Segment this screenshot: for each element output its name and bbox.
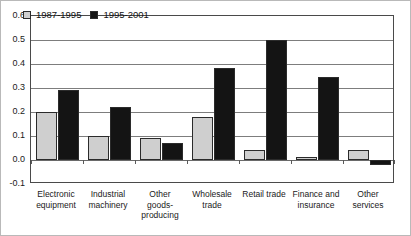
x-axis-category-label-line: producing [134,210,186,221]
bar-series1 [140,138,161,160]
x-axis-category-label-line: Finance and [290,189,342,200]
bar-group [83,16,135,182]
legend-entry: 1995-2001 [90,10,148,20]
bar-group [31,16,83,182]
bar-group [135,16,187,182]
bar-series1 [296,157,317,160]
y-axis-tick-label: 0.4 [0,59,25,68]
bar-series2 [214,68,235,160]
x-axis-category-label-line: Electronic [30,189,82,200]
chart-legend: 1987-19951995-2001 [23,10,149,20]
legend-swatch-black-icon [90,11,98,19]
x-axis-category-label: Othergoods-producing [134,189,186,221]
legend-swatch-gray-icon [23,11,31,19]
x-axis-category-label: Electronicequipment [30,189,82,210]
plot-area [30,15,394,183]
x-axis-category-label: Industrialmachinery [82,189,134,210]
y-axis-tick-label: 0.3 [0,83,25,92]
y-axis-tick-label: -0.1 [0,179,25,188]
x-axis-category-label: Retail trade [238,189,290,200]
x-axis-category-label-line: equipment [30,200,82,211]
x-axis-category-label-line: insurance [290,200,342,211]
y-axis-tick-label: 0.2 [0,107,25,116]
bar-series1 [88,136,109,160]
y-axis-tick-label: 0.5 [0,35,25,44]
legend-label: 1995-2001 [103,10,148,20]
bar-group [291,16,343,182]
bar-series2 [370,160,391,165]
y-axis-tick-label: 0.6 [0,11,25,20]
y-axis-tick-label: 0.1 [0,131,25,140]
x-axis-category-label: Finance andinsurance [290,189,342,210]
bar-group [343,16,395,182]
x-axis-category-label-line: Other [342,189,394,200]
bar-series2 [162,143,183,160]
x-axis-category-label-line: Other [134,189,186,200]
x-axis-category-label: Otherservices [342,189,394,210]
bar-series1 [36,112,57,160]
bar-group [187,16,239,182]
bar-series2 [58,90,79,160]
bar-series2 [110,107,131,160]
bar-group [239,16,291,182]
bar-series2 [318,77,339,160]
x-axis-category-label-line: Wholesale [186,189,238,200]
legend-entry: 1987-1995 [23,10,81,20]
legend-label: 1987-1995 [36,10,81,20]
x-axis-category-label-line: Industrial [82,189,134,200]
x-axis-category-label-line: services [342,200,394,211]
x-axis-category-label: Wholesaletrade [186,189,238,210]
x-axis-category-label-line: goods- [134,200,186,211]
bar-series1 [244,150,265,160]
y-axis-tick-label: 0.0 [0,155,25,164]
category-tick [394,160,395,164]
chart-figure: 0.60.50.40.30.20.10.0-0.1 1987-19951995-… [0,0,411,236]
x-axis-category-label-line: Retail trade [238,189,290,200]
x-axis-category-label-line: trade [186,200,238,211]
bar-series1 [348,150,369,160]
bar-series1 [192,117,213,160]
x-axis-category-label-line: machinery [82,200,134,211]
bar-series-container [31,16,393,182]
bar-series2 [266,40,287,160]
